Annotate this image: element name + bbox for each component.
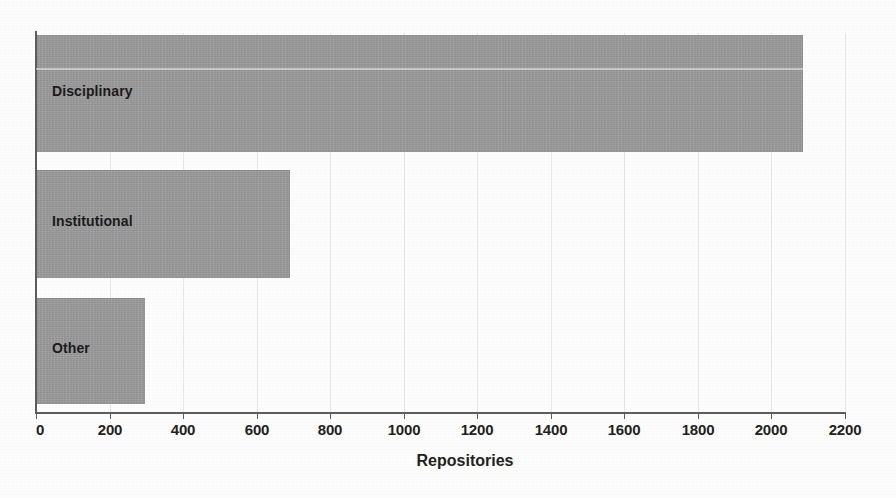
bar-label-institutional: Institutional: [52, 213, 133, 229]
x-tick-1400: [551, 412, 552, 419]
x-tick-label-1000: 1000: [388, 421, 421, 438]
x-tick-1600: [624, 412, 625, 419]
bar-disciplinary: Disciplinary: [36, 35, 803, 152]
x-tick-label-200: 200: [98, 421, 122, 438]
x-tick-400: [183, 412, 184, 419]
x-tick-600: [257, 412, 258, 419]
x-tick-2000: [771, 412, 772, 419]
x-tick-0: [36, 412, 37, 419]
plot-area: Disciplinary Institutional Other: [36, 33, 845, 412]
x-tick-label-400: 400: [171, 421, 195, 438]
x-tick-200: [110, 412, 111, 419]
x-tick-label-800: 800: [318, 421, 342, 438]
x-tick-label-1200: 1200: [461, 421, 494, 438]
x-tick-label-0: 0: [36, 421, 44, 438]
x-tick-label-1400: 1400: [535, 421, 568, 438]
x-tick-1200: [477, 412, 478, 419]
gridline-2200: [845, 33, 846, 412]
x-tick-1000: [404, 412, 405, 419]
bar-other: Other: [36, 298, 145, 404]
x-tick-label-2200: 2200: [829, 421, 862, 438]
x-axis-line: [36, 412, 846, 414]
bar-institutional: Institutional: [36, 170, 290, 278]
bar-label-disciplinary: Disciplinary: [52, 83, 133, 99]
x-tick-label-1800: 1800: [682, 421, 715, 438]
x-axis-title-text: Repositories: [417, 452, 514, 469]
x-tick-1800: [698, 412, 699, 419]
x-axis-title: Repositories: [0, 452, 896, 470]
bar-chart: Disciplinary Institutional Other 0 200 4…: [0, 0, 896, 498]
bar-label-other: Other: [52, 340, 90, 356]
y-axis-line: [35, 31, 37, 414]
x-tick-label-2000: 2000: [755, 421, 788, 438]
x-tick-2200: [845, 412, 846, 419]
x-tick-label-600: 600: [245, 421, 269, 438]
x-tick-800: [330, 412, 331, 419]
x-tick-label-1600: 1600: [608, 421, 641, 438]
